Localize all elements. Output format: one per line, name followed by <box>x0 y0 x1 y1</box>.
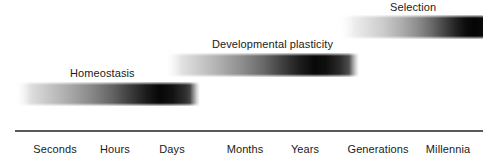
axis-tick-seconds: Seconds <box>33 143 77 155</box>
bar-selection <box>340 15 483 39</box>
bar-label-selection: Selection <box>390 1 436 13</box>
bar-developmental-plasticity-gradient <box>167 53 359 77</box>
axis-tick-days: Days <box>159 143 184 155</box>
axis-tick-hours: Hours <box>100 143 130 155</box>
bar-developmental-plasticity <box>167 53 359 77</box>
timescale-gradient-figure: Selection Developmental plasticity Homeo… <box>0 0 494 167</box>
axis-tick-months: Months <box>227 143 264 155</box>
bar-label-homeostasis: Homeostasis <box>70 67 135 79</box>
axis-tick-years: Years <box>291 143 319 155</box>
bar-homeostasis-gradient <box>17 82 200 106</box>
bar-label-developmental-plasticity: Developmental plasticity <box>212 38 333 50</box>
bar-homeostasis <box>17 82 200 106</box>
time-axis-line <box>15 130 483 132</box>
axis-tick-millennia: Millennia <box>426 143 470 155</box>
bar-selection-gradient <box>340 15 483 39</box>
axis-tick-generations: Generations <box>347 143 408 155</box>
